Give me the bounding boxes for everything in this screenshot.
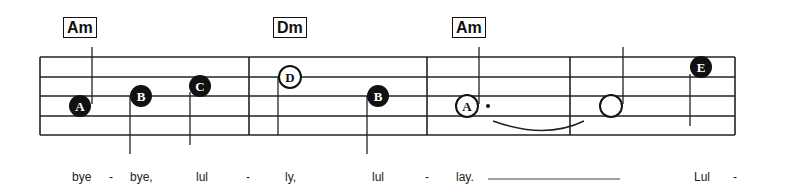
svg-text:E: E bbox=[697, 60, 706, 75]
note-b-filled: B bbox=[130, 85, 152, 154]
svg-text:C: C bbox=[195, 79, 204, 94]
lyric-hyphen: - bbox=[246, 170, 250, 184]
lyric-hyphen: - bbox=[733, 170, 737, 184]
lyric-syllable: Lul bbox=[694, 170, 710, 184]
lyric-syllable: lul bbox=[372, 170, 384, 184]
svg-text:B: B bbox=[137, 89, 146, 104]
chord-symbol-dm: Dm bbox=[273, 17, 307, 38]
lyric-hyphen: - bbox=[425, 170, 429, 184]
svg-text:A: A bbox=[462, 99, 472, 114]
lyric-syllable: bye, bbox=[130, 170, 153, 184]
lyric-syllable: lul bbox=[196, 170, 208, 184]
lyric-syllable: ly, bbox=[285, 170, 296, 184]
augmentation-dot bbox=[486, 104, 490, 108]
lyric-syllable: lay. bbox=[456, 170, 474, 184]
note-b-filled-2: B bbox=[367, 85, 389, 154]
lyric-hyphen: - bbox=[109, 170, 113, 184]
music-staff: A B C D B A E bbox=[0, 0, 785, 192]
chord-symbol-am-2: Am bbox=[452, 17, 486, 38]
chord-symbol-am: Am bbox=[63, 17, 97, 38]
lyric-syllable: bye bbox=[72, 170, 91, 184]
svg-text:A: A bbox=[75, 99, 85, 114]
svg-text:D: D bbox=[285, 70, 294, 85]
svg-text:B: B bbox=[374, 89, 383, 104]
note-d-open: D bbox=[278, 66, 301, 135]
